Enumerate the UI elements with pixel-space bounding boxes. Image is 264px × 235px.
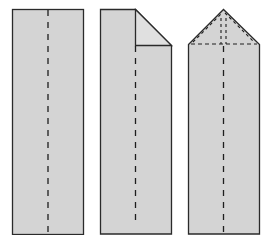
step-1-flat-strip	[13, 10, 84, 235]
folded-corner-flap	[136, 10, 172, 46]
step-2-corner-fold	[101, 10, 172, 235]
step-3-pointed-top	[189, 10, 260, 235]
folding-diagram	[0, 0, 264, 235]
